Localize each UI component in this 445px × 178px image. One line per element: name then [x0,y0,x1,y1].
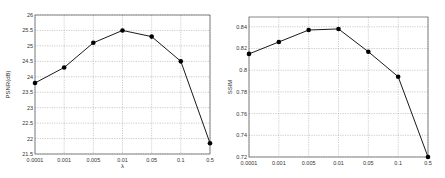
y-tick-label: 25 [27,43,33,49]
data-point [306,28,311,33]
x-tick-label: 0.1 [177,157,185,163]
x-tick-label: 0.001 [272,160,286,166]
x-tick-label: 0.05 [363,160,374,166]
y-tick-label: 0.76 [236,111,247,117]
y-tick-label: 22 [27,136,33,142]
gridlines [35,15,210,154]
data-point [33,81,38,86]
y-tick-label: 24.5 [22,58,33,64]
charts-canvas: 21.52222.52323.52424.52525.5260.00010.00… [0,0,445,178]
y-tick-label: 22.5 [22,120,33,126]
x-tick-label: 0.01 [333,160,344,166]
y-tick-label: 0.82 [236,45,247,51]
data-point [62,65,67,70]
y-tick-label: 0.74 [236,132,247,138]
data-point [247,52,252,57]
data-point [208,141,213,146]
x-tick-label: 0.005 [86,157,100,163]
x-tick-label: 0.0001 [27,157,44,163]
y-tick-label: 25.5 [22,27,33,33]
gridlines [249,17,428,157]
x-tick-label: 0.005 [302,160,316,166]
y-tick-label: 0.78 [236,89,247,95]
data-point [179,59,184,64]
data-point [396,74,401,79]
data-point [149,34,154,39]
y-tick-label: 26 [27,12,33,18]
x-tick-label: 0.5 [206,157,214,163]
y-tick-label: 0.84 [236,24,247,30]
x-tick-label: 0.0001 [241,160,258,166]
psnr-chart: 21.52222.52323.52424.52525.5260.00010.00… [5,12,214,169]
x-tick-label: 0.1 [394,160,402,166]
y-tick-label: 0.8 [239,67,247,73]
data-point [277,40,282,45]
x-tick-label: 0.5 [424,160,432,166]
x-tick-label: 0.001 [57,157,71,163]
y-tick-label: 24 [27,74,33,80]
x-axis-label: λ [121,163,124,169]
data-point [91,41,96,46]
data-point [336,27,341,32]
y-tick-label: 23.5 [22,89,33,95]
ssim-chart: 0.720.740.760.780.80.820.840.00010.0010.… [227,17,432,166]
y-axis-label: PSNR(dB) [5,70,11,98]
y-tick-label: 23 [27,105,33,111]
data-point [426,155,431,160]
data-point [366,49,371,54]
data-point [120,28,125,33]
x-tick-label: 0.05 [146,157,157,163]
y-axis-label: SSIM [227,80,233,95]
